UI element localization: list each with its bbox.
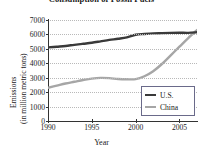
y-tick-mark — [46, 20, 49, 21]
chart-title: Consumption of Fossil Fuels — [0, 0, 203, 4]
x-axis-line — [48, 121, 198, 122]
y-tick-label: 7000 — [0, 16, 45, 25]
y-tick-label: 1000 — [0, 102, 45, 111]
legend-swatch-china — [145, 106, 156, 109]
legend-item-china: China — [145, 101, 178, 113]
y-tick-label: 3000 — [0, 73, 45, 82]
gridline — [48, 34, 197, 35]
x-tick-label: 1990 — [40, 123, 55, 132]
y-tick-mark — [46, 49, 49, 50]
fossil-fuels-line-chart: Consumption of Fossil Fuels Emissions (i… — [0, 0, 203, 151]
y-tick-label: 4000 — [0, 59, 45, 68]
x-tick-label: 2005 — [172, 123, 187, 132]
y-tick-label: 6000 — [0, 30, 45, 39]
chart-legend: U.S. China — [141, 86, 195, 116]
legend-label-us: U.S. — [160, 91, 174, 100]
gridline — [48, 78, 197, 79]
gridline — [48, 63, 197, 64]
x-axis-label: Year — [0, 138, 203, 147]
legend-swatch-us — [145, 94, 156, 97]
legend-item-us: U.S. — [145, 89, 174, 101]
gridline — [48, 20, 197, 21]
y-tick-mark — [46, 107, 49, 108]
x-tick-label: 2000 — [128, 123, 143, 132]
y-tick-label: 2000 — [0, 88, 45, 97]
y-tick-label: 0 — [0, 117, 45, 126]
legend-label-china: China — [160, 103, 178, 112]
y-tick-mark — [46, 78, 49, 79]
y-tick-label: 5000 — [0, 44, 45, 53]
y-tick-mark — [46, 34, 49, 35]
x-tick-label: 1995 — [84, 123, 99, 132]
y-tick-mark — [46, 63, 49, 64]
y-tick-mark — [46, 92, 49, 93]
gridline — [48, 49, 197, 50]
